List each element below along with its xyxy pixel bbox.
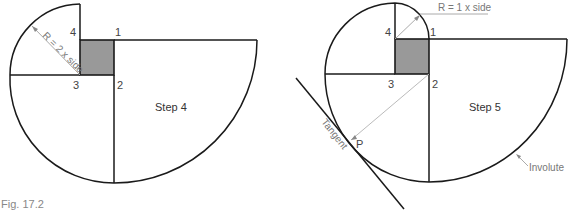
step4-title: Step 4	[155, 101, 187, 113]
step4-corner-2: 2	[117, 79, 123, 91]
step5-involute-label: Involute	[529, 162, 564, 173]
step4-corner-4: 4	[70, 26, 76, 38]
step4-diagram: R = 2 x side 1 2 3 4 Step 4	[10, 4, 257, 183]
step5-radius-note: R = 1 x side	[438, 2, 492, 13]
step5-title: Step 5	[469, 101, 501, 113]
step5-involute-curve	[325, 3, 567, 182]
step5-tangent-label: Tangent	[319, 116, 350, 151]
step4-corner-1: 1	[115, 26, 121, 38]
figure-caption: Fig. 17.2	[1, 198, 44, 210]
step5-square	[395, 39, 429, 74]
step5-diagram: R = 1 x side Tangent P Involute 1 2 3 4 …	[296, 2, 567, 209]
step5-corner-1: 1	[430, 26, 436, 38]
step5-point-label: P	[356, 138, 363, 150]
step5-corner-3: 3	[388, 78, 394, 90]
step4-corner-3: 3	[73, 79, 79, 91]
step4-square	[80, 40, 114, 75]
step5-corner-4: 4	[385, 26, 391, 38]
step5-corner-2: 2	[432, 78, 438, 90]
involute-construction-diagram: R = 2 x side 1 2 3 4 Step 4 R = 1 x side…	[0, 0, 571, 216]
